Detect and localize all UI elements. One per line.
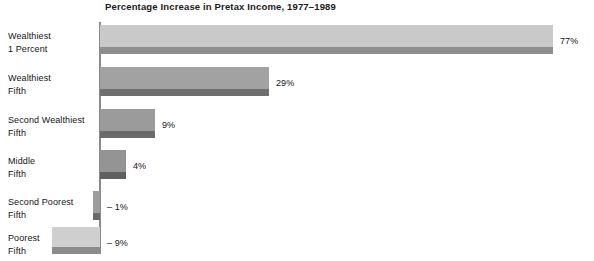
value-label-poorest-fifth: – 9%	[107, 238, 128, 248]
category-label-line2: Fifth	[8, 168, 35, 181]
category-label-second-poorest-fifth: Second Poorest Fifth	[8, 196, 73, 221]
bar-shadow-edge	[100, 89, 269, 96]
category-label-second-wealthiest-fifth: Second Wealthiest Fifth	[8, 114, 85, 139]
category-label-line2: Fifth	[8, 85, 51, 98]
category-label-line1: Poorest	[8, 232, 40, 245]
category-label-wealthiest-1-percent: Wealthiest 1 Percent	[8, 30, 51, 55]
bar-second-wealthiest-fifth	[100, 109, 155, 138]
category-label-wealthiest-fifth: Wealthiest Fifth	[8, 72, 51, 97]
category-label-line2: Fifth	[8, 127, 85, 140]
bar-wealthiest-fifth	[100, 67, 269, 96]
category-label-middle-fifth: Middle Fifth	[8, 155, 35, 180]
bar-shadow-edge	[100, 47, 553, 54]
bar-second-poorest-fifth	[93, 191, 100, 220]
bar-wealthiest-1-percent	[100, 25, 553, 54]
value-label-middle-fifth: 4%	[133, 161, 146, 171]
bar-shadow-edge	[100, 172, 126, 179]
bar-shadow-edge	[100, 131, 155, 138]
value-label-second-poorest-fifth: – 1%	[107, 202, 128, 212]
category-label-line1: Second Wealthiest	[8, 114, 85, 127]
bar-shadow-edge	[93, 213, 100, 220]
category-label-line1: Second Poorest	[8, 196, 73, 209]
category-label-line1: Middle	[8, 155, 35, 168]
bar-poorest-fifth	[52, 227, 100, 254]
category-label-line2: Fifth	[8, 209, 73, 222]
category-label-line2: Fifth	[8, 245, 40, 258]
bar-shadow-edge	[52, 247, 100, 254]
chart-title: Percentage Increase in Pretax Income, 19…	[105, 1, 336, 12]
value-label-second-wealthiest-fifth: 9%	[162, 120, 175, 130]
category-label-line1: Wealthiest	[8, 30, 51, 43]
value-label-wealthiest-1-percent: 77%	[560, 36, 578, 46]
pretax-income-bar-chart: Percentage Increase in Pretax Income, 19…	[0, 0, 594, 261]
value-label-wealthiest-fifth: 29%	[276, 78, 294, 88]
category-label-line2: 1 Percent	[8, 43, 51, 56]
category-label-line1: Wealthiest	[8, 72, 51, 85]
category-label-poorest-fifth: Poorest Fifth	[8, 232, 40, 257]
bar-middle-fifth	[100, 150, 126, 179]
